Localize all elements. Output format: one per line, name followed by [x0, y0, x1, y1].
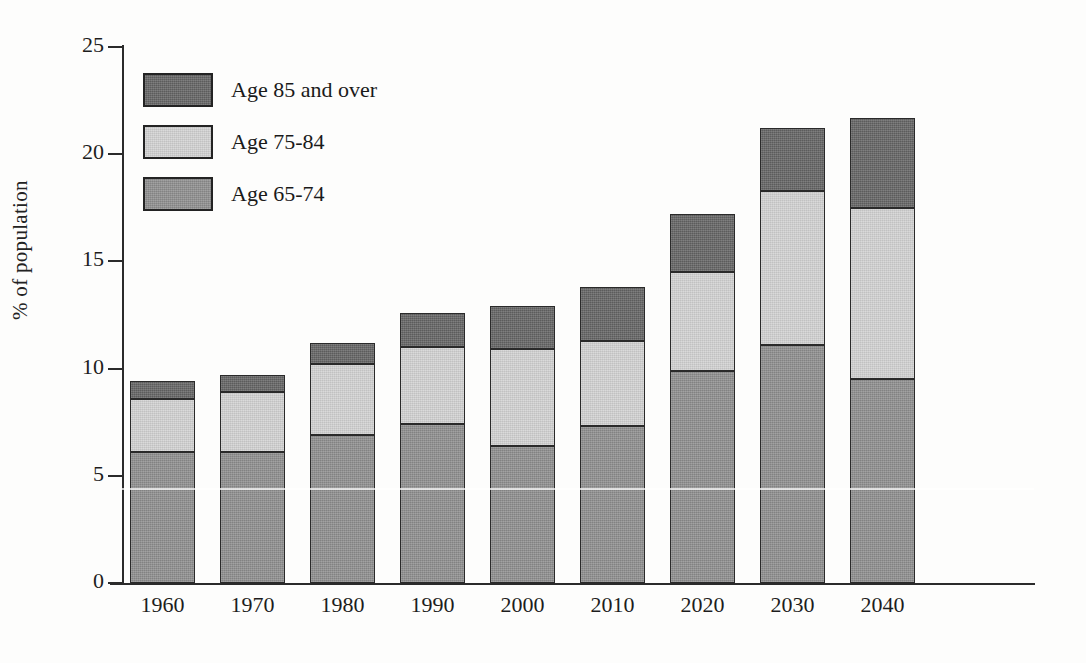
bar-segment-age-65-74	[310, 435, 375, 583]
legend-item: Age 85 and over	[143, 68, 377, 112]
x-axis-label: 2010	[568, 592, 658, 618]
x-axis-label: 2030	[748, 592, 838, 618]
bar-segment-age-75-84	[850, 208, 915, 380]
bar-segment-age-65-74	[670, 371, 735, 583]
bar-segment-age-85-over	[400, 313, 465, 347]
x-axis-label: 2000	[478, 592, 568, 618]
bar-segment-age-65-74	[130, 452, 195, 583]
bar-group	[760, 47, 825, 583]
bar-segment-age-75-84	[400, 347, 465, 424]
bar-segment-age-75-84	[220, 392, 285, 452]
bar-segment-age-65-74	[400, 424, 465, 583]
bar-segment-age-65-74	[760, 345, 825, 583]
bar-segment-age-85-over	[580, 287, 645, 341]
x-axis-label: 2020	[658, 592, 748, 618]
legend: Age 85 and overAge 75-84Age 65-74	[143, 68, 377, 224]
bar-segment-age-65-74	[490, 446, 555, 583]
y-axis-tick	[108, 46, 124, 48]
y-axis-tick-label: 5	[58, 463, 104, 485]
bar-segment-age-85-over	[670, 214, 735, 272]
x-axis-line	[110, 583, 1035, 585]
y-axis-tick-label: 15	[58, 248, 104, 270]
bar-segment-age-65-74	[220, 452, 285, 583]
x-axis-label: 1970	[208, 592, 298, 618]
legend-label: Age 75-84	[231, 129, 324, 155]
x-axis-label: 1980	[298, 592, 388, 618]
bar-segment-age-85-over	[760, 128, 825, 190]
bar-group	[490, 47, 555, 583]
x-axis-label: 1990	[388, 592, 478, 618]
bar-segment-age-75-84	[130, 399, 195, 453]
y-axis-title: % of population	[8, 100, 33, 320]
y-axis-tick	[108, 153, 124, 155]
bar-segment-age-75-84	[490, 349, 555, 445]
y-axis-tick	[108, 475, 124, 477]
legend-label: Age 85 and over	[231, 77, 377, 103]
legend-swatch-icon	[143, 125, 213, 159]
stacked-bar-chart: % of population 0510152025 1960197019801…	[0, 0, 1086, 663]
bar-segment-age-75-84	[760, 191, 825, 345]
bar-group	[580, 47, 645, 583]
bar-segment-age-75-84	[580, 341, 645, 427]
y-axis-tick-label: 10	[58, 356, 104, 378]
bar-group	[670, 47, 735, 583]
legend-swatch-icon	[143, 177, 213, 211]
bar-segment-age-85-over	[220, 375, 285, 392]
y-axis-tick	[108, 260, 124, 262]
bar-segment-age-75-84	[670, 272, 735, 371]
y-axis-tick	[108, 368, 124, 370]
y-axis-tick-label: 25	[58, 34, 104, 56]
bar-segment-age-85-over	[130, 381, 195, 398]
x-axis-label: 1960	[118, 592, 208, 618]
y-axis-tick-label: 0	[58, 570, 104, 592]
bar-segment-age-65-74	[850, 379, 915, 583]
y-axis-tick-label: 20	[58, 141, 104, 163]
bar-segment-age-65-74	[580, 426, 645, 583]
legend-label: Age 65-74	[231, 181, 324, 207]
bar-segment-age-85-over	[490, 306, 555, 349]
legend-item: Age 65-74	[143, 172, 377, 216]
legend-item: Age 75-84	[143, 120, 377, 164]
y-axis-tick	[108, 582, 124, 584]
legend-swatch-icon	[143, 73, 213, 107]
bar-group	[400, 47, 465, 583]
x-axis-label: 2040	[838, 592, 928, 618]
bar-group	[850, 47, 915, 583]
bar-segment-age-85-over	[310, 343, 375, 364]
bar-segment-age-85-over	[850, 118, 915, 208]
y-axis-line	[122, 45, 124, 585]
bar-segment-age-75-84	[310, 364, 375, 435]
